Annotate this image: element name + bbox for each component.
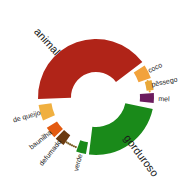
wheel-label-animal: animal: [32, 25, 63, 57]
trail-dot: [149, 90, 151, 92]
flavor-wheel-chart: animalcocopêssegomelgordurosoverdedefuma…: [0, 0, 192, 194]
trail-dot: [75, 146, 77, 148]
wheel-label-mel: mel: [158, 95, 170, 102]
wheel-slice-de-queijo: [39, 103, 55, 120]
wheel-label-gorduroso: gorduroso: [122, 132, 161, 179]
trail-dot: [148, 88, 150, 90]
trail-dot: [147, 80, 149, 82]
trail-dot: [148, 85, 150, 87]
wheel-label-de-queijo: de queijo: [12, 109, 42, 125]
wheel-label-verde: verde: [72, 153, 83, 172]
trail-dot: [65, 141, 67, 143]
trail-dot: [73, 145, 75, 147]
trail-dot: [147, 83, 149, 85]
wheel-slice-verde: [76, 140, 88, 154]
wheel-label-pêssego: pêssego: [151, 76, 179, 89]
wheel-label-coco: coco: [147, 61, 163, 74]
flavor-wheel-svg: animalcocopêssegomelgordurosoverdedefuma…: [0, 0, 192, 194]
wheel-slice-mel: [140, 93, 154, 103]
